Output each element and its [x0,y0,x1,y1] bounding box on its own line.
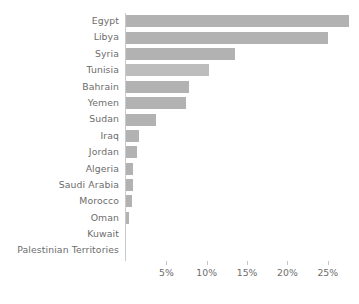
bar-row: Egypt [0,13,359,29]
bar-row: Sudan [0,111,359,127]
category-label: Kuwait [87,226,119,242]
bar[interactable] [126,114,156,126]
bar[interactable] [126,212,129,224]
bar-track [126,97,186,109]
x-axis-tick [207,261,208,265]
bar-track [126,81,189,93]
category-label: Algeria [86,161,119,177]
bar[interactable] [126,32,328,44]
bar[interactable] [126,130,139,142]
bar-track [126,64,209,76]
bar[interactable] [126,48,235,60]
bar-row: Tunisia [0,62,359,78]
bar[interactable] [126,163,133,175]
bar-row: Bahrain [0,79,359,95]
bar-track [126,179,133,191]
bar-track [126,163,133,175]
category-label: Jordan [89,144,119,160]
bar-row: Libya [0,29,359,45]
plot-area: EgyptLibyaSyriaTunisiaBahrainYemenSudanI… [0,0,359,304]
bar-row: Oman [0,210,359,226]
category-label: Bahrain [82,79,119,95]
category-label: Egypt [92,13,119,29]
x-axis-tick-label: 20% [277,267,298,278]
bar-row: Kuwait [0,226,359,242]
bar-row: Algeria [0,161,359,177]
category-label: Iraq [100,128,119,144]
category-label: Saudi Arabia [59,177,119,193]
bar-track [126,32,328,44]
category-label: Libya [94,29,119,45]
bar-row: Jordan [0,144,359,160]
x-axis-tick [247,261,248,265]
category-label: Palestinian Territories [17,242,119,258]
x-axis-tick [166,261,167,265]
bar-track [126,15,349,27]
x-axis-tick [328,261,329,265]
category-label: Morocco [79,193,119,209]
category-label: Yemen [88,95,119,111]
bar-track [126,212,129,224]
bar-row: Yemen [0,95,359,111]
category-label: Oman [91,210,119,226]
bar-track [126,195,132,207]
x-axis: 5%10%15%20%25% [0,261,359,291]
x-axis-tick-label: 10% [196,267,217,278]
bar-row: Iraq [0,128,359,144]
x-axis-tick-label: 25% [317,267,338,278]
bar-track [126,114,156,126]
bar-row: Palestinian Territories [0,242,359,258]
bar[interactable] [126,15,349,27]
bar[interactable] [126,81,189,93]
bar-row: Syria [0,46,359,62]
bar-track [126,146,137,158]
category-label: Sudan [89,111,119,127]
x-axis-tick-label: 5% [159,267,174,278]
category-label: Tunisia [87,62,119,78]
bar-row: Saudi Arabia [0,177,359,193]
bar[interactable] [126,195,132,207]
x-axis-tick-label: 15% [237,267,258,278]
bar-track [126,130,139,142]
category-label: Syria [95,46,119,62]
bar-rows: EgyptLibyaSyriaTunisiaBahrainYemenSudanI… [0,13,359,259]
bar[interactable] [126,64,209,76]
x-axis-tick [287,261,288,265]
bar-chart: EgyptLibyaSyriaTunisiaBahrainYemenSudanI… [0,0,359,304]
bar[interactable] [126,97,186,109]
bar[interactable] [126,146,137,158]
bar[interactable] [126,179,133,191]
bar-row: Morocco [0,193,359,209]
bar-track [126,48,235,60]
